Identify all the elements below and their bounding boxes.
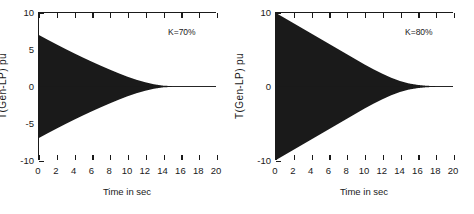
x-tick-top [57, 13, 58, 18]
x-tick-bottom [75, 155, 76, 160]
x-tick-bottom [199, 155, 200, 160]
x-tick-top [110, 13, 111, 18]
x-tick-bottom [276, 155, 277, 160]
y-tick [39, 87, 44, 88]
x-tick-top [128, 13, 129, 18]
x-tick-top [181, 13, 182, 18]
x-tick-top [401, 13, 402, 18]
x-tick-bottom [146, 155, 147, 160]
chart-panel-right: 02468101214161820 -10010 Time in sec T(G… [237, 0, 474, 214]
y-tick [39, 124, 44, 125]
x-tick-top [164, 13, 165, 18]
x-tick-bottom [128, 155, 129, 160]
x-tick-bottom [365, 155, 366, 160]
x-tick-label: 6 [326, 165, 331, 176]
x-tick-bottom [383, 155, 384, 160]
x-tick-label: 20 [448, 165, 459, 176]
y-tick-label: 0 [12, 81, 34, 92]
y-tick [39, 13, 44, 14]
annotation-k-value-left: K=70% [168, 27, 196, 37]
x-tick-bottom [347, 155, 348, 160]
x-axis-title-left: Time in sec [38, 186, 216, 197]
x-tick-bottom [418, 155, 419, 160]
x-tick-label: 18 [430, 165, 441, 176]
x-tick-label: 0 [272, 165, 277, 176]
x-tick-label: 10 [122, 165, 133, 176]
x-tick-bottom [329, 155, 330, 160]
y-axis-title-left: T(Gen-LP) pu [0, 53, 8, 119]
x-tick-bottom [436, 155, 437, 160]
y-tick [39, 161, 44, 162]
y-tick-label: 0 [249, 81, 271, 92]
annotation-k-value-right: K=80% [405, 27, 433, 37]
y-tick-label: 5 [12, 44, 34, 55]
x-tick-bottom [92, 155, 93, 160]
x-tick-label: 16 [412, 165, 423, 176]
x-tick-top [436, 13, 437, 18]
x-tick-bottom [181, 155, 182, 160]
x-tick-top [294, 13, 295, 18]
x-tick-label: 4 [71, 165, 76, 176]
y-tick [276, 87, 281, 88]
x-tick-top [347, 13, 348, 18]
x-tick-top [217, 13, 218, 18]
y-tick-label: -10 [249, 155, 271, 166]
x-tick-top [146, 13, 147, 18]
y-tick [39, 50, 44, 51]
x-tick-bottom [164, 155, 165, 160]
x-tick-bottom [110, 155, 111, 160]
x-tick-bottom [312, 155, 313, 160]
x-tick-label: 16 [175, 165, 186, 176]
x-tick-top [75, 13, 76, 18]
y-tick [276, 161, 281, 162]
x-tick-bottom [39, 155, 40, 160]
x-tick-bottom [294, 155, 295, 160]
chart-panel-left: 02468101214161820 -10-50510 Time in sec … [0, 0, 237, 214]
x-tick-label: 2 [290, 165, 295, 176]
x-tick-top [365, 13, 366, 18]
x-tick-top [329, 13, 330, 18]
x-tick-label: 14 [394, 165, 405, 176]
x-tick-top [454, 13, 455, 18]
x-tick-label: 8 [344, 165, 349, 176]
x-tick-bottom [57, 155, 58, 160]
x-tick-label: 18 [193, 165, 204, 176]
x-tick-label: 0 [35, 165, 40, 176]
y-tick-label: 10 [12, 7, 34, 18]
x-tick-label: 12 [140, 165, 151, 176]
x-axis-title-right: Time in sec [275, 186, 453, 197]
x-tick-bottom [454, 155, 455, 160]
x-tick-top [312, 13, 313, 18]
x-tick-top [418, 13, 419, 18]
x-tick-top [199, 13, 200, 18]
x-tick-label: 4 [308, 165, 313, 176]
x-tick-label: 14 [157, 165, 168, 176]
y-tick-label: -5 [12, 118, 34, 129]
y-tick-label: -10 [12, 155, 34, 166]
y-axis-title-right: T(Gen-LP) pu [234, 53, 245, 119]
x-tick-label: 20 [211, 165, 222, 176]
x-tick-label: 6 [89, 165, 94, 176]
x-tick-label: 10 [359, 165, 370, 176]
x-tick-label: 2 [53, 165, 58, 176]
x-tick-top [92, 13, 93, 18]
x-tick-label: 8 [107, 165, 112, 176]
x-tick-label: 12 [377, 165, 388, 176]
x-tick-bottom [401, 155, 402, 160]
y-tick-label: 10 [249, 7, 271, 18]
x-tick-top [383, 13, 384, 18]
figure-two-panel-oscillation: 02468101214161820 -10-50510 Time in sec … [0, 0, 474, 214]
y-tick [276, 13, 281, 14]
x-tick-bottom [217, 155, 218, 160]
